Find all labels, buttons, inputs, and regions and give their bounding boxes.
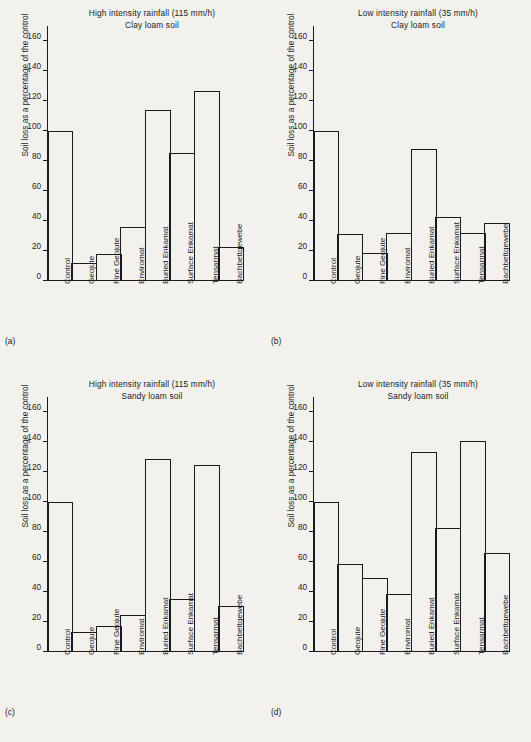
- category-slot: Tensarmat: [462, 655, 487, 735]
- y-tick: [43, 40, 47, 41]
- bar-slot: [122, 26, 147, 281]
- y-tick-label: 60: [298, 183, 307, 191]
- category-label: Buried Enkamat: [428, 226, 436, 284]
- category-slot: Bachbettgewebe: [220, 284, 245, 364]
- soil-loss-figure: High intensity rainfall (115 mm/h) Clay …: [0, 0, 531, 742]
- category-label: Enviromat: [138, 619, 146, 655]
- y-tick-label: 80: [32, 153, 41, 161]
- category-label: Surface Enkamat: [187, 222, 195, 284]
- panel-b-title-line1: Low intensity rainfall (35 mm/h): [358, 8, 478, 18]
- panel-d-title-line1: Low intensity rainfall (35 mm/h): [358, 379, 478, 389]
- category-label: Control: [64, 258, 72, 284]
- category-slot: Tensarmat: [196, 284, 221, 364]
- category-slot: Buried Enkamat: [413, 284, 438, 364]
- panel-d-label: (d): [271, 707, 281, 717]
- y-tick-label: 80: [298, 524, 307, 532]
- panel-c: High intensity rainfall (115 mm/h) Sandy…: [0, 371, 265, 742]
- y-tick: [43, 531, 47, 532]
- y-tick-label: 120: [27, 464, 41, 472]
- category-label: Fine Geojute: [379, 238, 387, 284]
- y-tick-label: 20: [32, 243, 41, 251]
- bar-slot: [48, 397, 73, 652]
- y-tick: [43, 280, 47, 281]
- y-tick-label: 160: [293, 404, 307, 412]
- y-tick-label: 20: [32, 614, 41, 622]
- category-label: Buried Enkamat: [428, 597, 436, 655]
- category-slot: Bachbettgewebe: [220, 655, 245, 735]
- panel-d-category-labels: ControlGeojuteFine GeojuteEnviromatBurie…: [314, 655, 511, 735]
- category-slot: Control: [48, 284, 73, 364]
- y-tick-label: 120: [293, 464, 307, 472]
- y-tick-label: 120: [293, 93, 307, 101]
- y-tick: [43, 561, 47, 562]
- panel-c-y-axis-label: Soil loss as a percentage of the control: [20, 351, 30, 561]
- y-tick-label: 40: [32, 213, 41, 221]
- bar-slot: [461, 397, 486, 652]
- panel-a: High intensity rainfall (115 mm/h) Clay …: [0, 0, 265, 371]
- category-slot: Surface Enkamat: [437, 655, 462, 735]
- y-tick-label: 80: [32, 524, 41, 532]
- y-tick: [309, 561, 313, 562]
- panel-b-plot-area: 020406080100120140160: [313, 26, 510, 281]
- category-label: Fine Geojute: [113, 609, 121, 655]
- category-slot: Buried Enkamat: [147, 284, 172, 364]
- y-tick-label: 20: [298, 243, 307, 251]
- y-tick: [309, 280, 313, 281]
- category-label: Geojute: [88, 627, 96, 655]
- category-label: Tensarmat: [212, 617, 220, 655]
- category-label: Tensarmat: [478, 617, 486, 655]
- category-label: Enviromat: [404, 619, 412, 655]
- y-tick: [309, 531, 313, 532]
- category-slot: Control: [48, 655, 73, 735]
- category-label: Fine Geojute: [113, 238, 121, 284]
- category-label: Bachbettgewebe: [236, 224, 244, 284]
- panel-c-label: (c): [5, 707, 15, 717]
- bar-slot: [388, 26, 413, 281]
- category-slot: Surface Enkamat: [437, 284, 462, 364]
- y-tick: [309, 250, 313, 251]
- panel-a-plot-area: 020406080100120140160: [47, 26, 244, 281]
- y-tick: [309, 220, 313, 221]
- panel-d: Low intensity rainfall (35 mm/h) Sandy l…: [266, 371, 531, 742]
- panel-c-bars: [48, 397, 244, 652]
- panel-c-plot-area: 020406080100120140160: [47, 397, 244, 652]
- category-label: Control: [330, 629, 338, 655]
- category-label: Control: [64, 629, 72, 655]
- category-slot: Fine Geojute: [97, 284, 122, 364]
- panel-a-label: (a): [5, 336, 15, 346]
- y-tick: [43, 591, 47, 592]
- y-tick: [43, 190, 47, 191]
- category-label: Enviromat: [138, 248, 146, 284]
- bar-slot: [73, 26, 98, 281]
- y-tick-label: 40: [298, 213, 307, 221]
- category-slot: Enviromat: [122, 284, 147, 364]
- category-slot: Buried Enkamat: [147, 655, 172, 735]
- category-slot: Tensarmat: [462, 284, 487, 364]
- y-tick: [43, 441, 47, 442]
- y-tick: [309, 621, 313, 622]
- y-tick-label: 100: [27, 123, 41, 131]
- y-tick: [309, 160, 313, 161]
- y-tick-label: 40: [32, 584, 41, 592]
- bar-slot: [314, 397, 339, 652]
- category-label: Geojute: [354, 256, 362, 284]
- category-label: Bachbettgewebe: [236, 595, 244, 655]
- category-label: Buried Enkamat: [162, 597, 170, 655]
- y-tick-label: 140: [27, 63, 41, 71]
- panel-b-category-labels: ControlGeojuteFine GeojuteEnviromatBurie…: [314, 284, 511, 364]
- category-slot: Enviromat: [388, 655, 413, 735]
- category-slot: Enviromat: [388, 284, 413, 364]
- bar-slot: [339, 397, 364, 652]
- y-tick-label: 0: [36, 273, 41, 281]
- y-tick: [309, 130, 313, 131]
- category-label: Surface Enkamat: [453, 593, 461, 655]
- panel-b-label: (b): [271, 336, 281, 346]
- category-slot: Tensarmat: [196, 655, 221, 735]
- y-tick: [309, 40, 313, 41]
- y-tick-label: 100: [27, 494, 41, 502]
- category-slot: Geojute: [339, 284, 364, 364]
- y-tick-label: 60: [32, 183, 41, 191]
- panel-a-title-line1: High intensity rainfall (115 mm/h): [89, 8, 215, 18]
- y-tick: [309, 591, 313, 592]
- y-tick: [43, 621, 47, 622]
